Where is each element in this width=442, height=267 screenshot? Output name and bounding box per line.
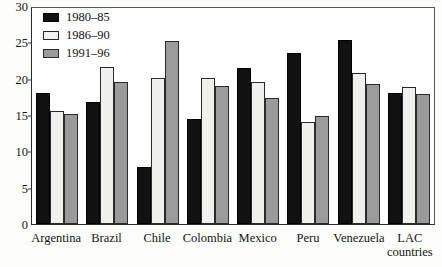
y-axis-tick-mark <box>28 79 32 80</box>
legend-item: 1986–90 <box>43 29 110 42</box>
bar <box>237 68 251 224</box>
y-axis-tick-label: 25 <box>2 37 28 50</box>
legend-item: 1980–85 <box>43 11 110 24</box>
bar <box>215 86 229 224</box>
bar <box>416 94 430 224</box>
x-axis-category-label: LAC countries <box>385 229 435 267</box>
bar <box>366 84 380 224</box>
bar-group <box>334 8 384 224</box>
bar <box>201 78 215 224</box>
bar <box>86 102 100 224</box>
gray-square-swatch <box>43 49 59 58</box>
bar <box>151 78 165 224</box>
y-axis-tick-mark <box>28 43 32 44</box>
bar <box>50 111 64 224</box>
bar <box>187 119 201 224</box>
bar <box>137 167 151 224</box>
bar <box>315 116 329 224</box>
y-axis-tick-mark <box>28 116 32 117</box>
x-axis-category-label: Argentina <box>31 229 81 267</box>
bar <box>287 53 301 224</box>
y-axis-tick-label: 5 <box>2 182 28 195</box>
bar-chart-figure: 051015202530 1980–851986–901991–96 Argen… <box>0 0 442 267</box>
y-axis-tick-label: 10 <box>2 146 28 159</box>
white-square-swatch <box>43 31 59 40</box>
legend-item-label: 1991–96 <box>66 47 110 60</box>
legend-item: 1991–96 <box>43 47 110 60</box>
bar <box>165 41 179 224</box>
bar <box>265 98 279 224</box>
bar <box>36 93 50 224</box>
y-axis-tick-label: 15 <box>2 110 28 123</box>
bar <box>100 67 114 224</box>
legend: 1980–851986–901991–96 <box>43 11 110 60</box>
bar <box>301 122 315 224</box>
bar-group <box>133 8 183 224</box>
bar <box>402 87 416 224</box>
y-axis-tick-mark <box>28 152 32 153</box>
y-axis-tick-label: 20 <box>2 73 28 86</box>
bar-group <box>384 8 434 224</box>
x-axis-category-labels: ArgentinaBrazilChileColombiaMexicoPeruVe… <box>31 229 435 267</box>
legend-item-label: 1986–90 <box>66 29 110 42</box>
bar-group <box>183 8 233 224</box>
y-axis-tick-label: 30 <box>2 1 28 14</box>
bar-group <box>233 8 283 224</box>
bar <box>114 82 128 224</box>
bar <box>251 82 265 224</box>
bar-group <box>283 8 333 224</box>
x-axis-category-label: Chile <box>132 229 182 267</box>
legend-item-label: 1980–85 <box>66 11 110 24</box>
x-axis-category-label: Brazil <box>81 229 131 267</box>
bar <box>388 93 402 224</box>
y-axis: 051015202530 <box>0 0 28 267</box>
bar <box>338 40 352 224</box>
x-axis-category-label: Mexico <box>233 229 283 267</box>
y-axis-tick-mark <box>28 188 32 189</box>
y-axis-tick-label: 0 <box>2 219 28 232</box>
bar <box>64 114 78 224</box>
x-axis-category-label: Venezuela <box>333 229 384 267</box>
black-square-swatch <box>43 13 59 22</box>
x-axis-category-label: Colombia <box>182 229 232 267</box>
bar <box>352 73 366 224</box>
x-axis-category-label: Peru <box>283 229 333 267</box>
